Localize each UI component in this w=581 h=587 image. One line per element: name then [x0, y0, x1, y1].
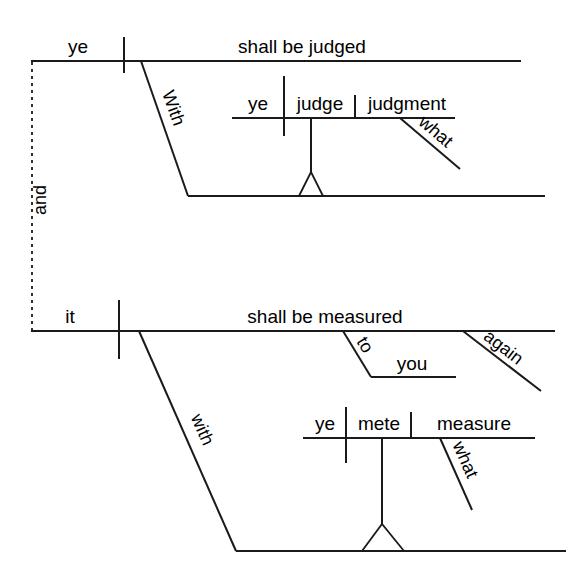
clause1-inner-modifier-label: what [414, 111, 457, 152]
clause2-inner-subject-label: ye [315, 413, 335, 434]
clause2-predicate-label: shall be measured [247, 306, 402, 327]
diagram-canvas: ye shall be judged With ye judge judgmen… [0, 0, 581, 587]
clause2-prep-label: with [186, 410, 218, 448]
conjunction-label: and [30, 185, 50, 215]
clause2-to-object-label: you [397, 353, 428, 374]
clause1-inner-subject-label: ye [248, 93, 268, 114]
clause2-to-phrase-group: to you [343, 331, 456, 377]
conjunction-group: and [30, 62, 50, 330]
clause1-subject-label: ye [68, 36, 88, 57]
clause1-inner-clause-group: ye judge judgment what [232, 76, 460, 196]
clause2-inner-modifier-label: what [448, 437, 482, 481]
sentence-diagram-root: ye shall be judged With ye judge judgmen… [0, 0, 581, 587]
clause1-inner-verb-label: judge [296, 93, 344, 114]
clause2-inner-verb-label: mete [358, 413, 400, 434]
clause2-inner-clause-group: ye mete measure what [303, 407, 535, 551]
clause1-inner-object-label: judgment [367, 93, 447, 114]
clause1-inner-tripod [299, 172, 323, 196]
clause2-inner-tripod [362, 524, 404, 551]
clause2-subject-label: it [65, 306, 75, 327]
clause1-prep-slant [141, 61, 188, 196]
clause2-prep-slant [139, 331, 236, 551]
clause2-again-group: again [463, 326, 541, 391]
clause1-predicate-label: shall be judged [238, 36, 366, 57]
clause2-inner-object-label: measure [437, 413, 511, 434]
clause1-group: ye shall be judged With ye judge judgmen… [31, 36, 545, 196]
clause2-group: it shall be measured to you again with [31, 300, 566, 551]
